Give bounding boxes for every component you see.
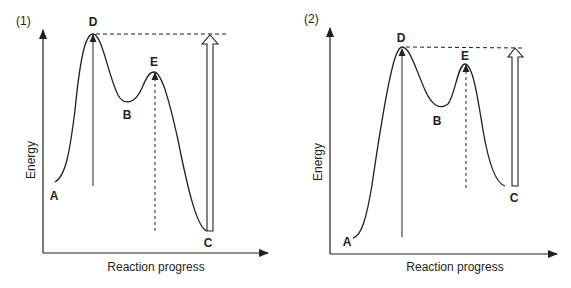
panel-2: (2) Energy Reaction progress D E B A C: [304, 12, 557, 274]
panel-1: (1) Energy Reaction progress D E B A C: [16, 14, 268, 274]
panel-1-label: (1): [16, 14, 31, 28]
panel-2-label: (2): [304, 12, 319, 26]
point-label-a: A: [343, 235, 352, 249]
energy-curve: [55, 34, 207, 231]
energy-diagram-figure: (1) Energy Reaction progress D E B A C (…: [0, 0, 571, 288]
x-axis-label: Reaction progress: [107, 260, 204, 274]
point-label-a: A: [50, 189, 59, 203]
point-label-e: E: [150, 55, 158, 69]
y-axis-label: Energy: [311, 143, 325, 181]
hollow-arrow-c-to-d: [202, 35, 218, 231]
point-label-b: B: [433, 114, 442, 128]
point-label-b: B: [123, 108, 132, 122]
hollow-arrow-c-to-d: [508, 48, 523, 186]
point-label-c: C: [510, 191, 519, 205]
energy-curve: [353, 47, 505, 238]
point-label-d: D: [397, 31, 406, 45]
point-label-c: C: [204, 236, 213, 250]
y-axis-label: Energy: [24, 141, 38, 179]
d-level-line: [406, 47, 523, 48]
x-axis-label: Reaction progress: [406, 260, 503, 274]
point-label-e: E: [461, 49, 469, 63]
point-label-d: D: [89, 15, 98, 29]
